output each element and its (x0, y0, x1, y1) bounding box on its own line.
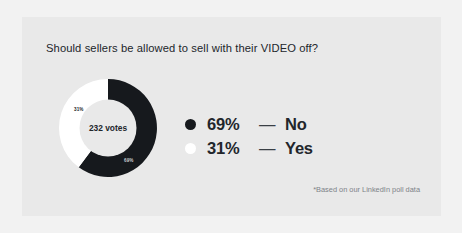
donut-slice-label-yes: 31% (74, 107, 84, 112)
legend-percent-yes: 31% (207, 139, 259, 158)
source-footnote: *Based on our LinkedIn poll data (313, 185, 420, 194)
legend-label-yes: Yes (285, 139, 313, 158)
legend-item-no: 69% — No (185, 112, 355, 136)
dark-dot-icon (185, 119, 196, 130)
legend-label-no: No (285, 115, 307, 134)
poll-card: Should sellers be allowed to sell with t… (22, 17, 441, 216)
donut-slice-label-no: 69% (124, 158, 134, 163)
page-title: Should sellers be allowed to sell with t… (46, 42, 318, 54)
legend-dash-yes: — (259, 139, 285, 158)
legend-item-yes: 31% — Yes (185, 136, 355, 160)
donut-hole (80, 100, 137, 157)
donut-chart-svg: 31% 69% (58, 78, 158, 178)
donut-chart: 31% 69% 232 votes (58, 78, 158, 178)
light-dot-icon (185, 143, 196, 154)
chart-legend: 69% — No 31% — Yes (185, 112, 355, 160)
legend-percent-no: 69% (207, 115, 259, 134)
legend-dash-no: — (259, 115, 285, 134)
